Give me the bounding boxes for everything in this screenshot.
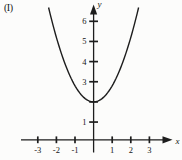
y-tick-label: 1 bbox=[82, 117, 86, 127]
x-tick-label: 3 bbox=[147, 145, 151, 155]
y-tick-label: 6 bbox=[82, 16, 86, 26]
x-tick-label: -3 bbox=[34, 145, 41, 155]
x-tick-label: 2 bbox=[129, 145, 133, 155]
x-tick-label: 1 bbox=[110, 145, 114, 155]
y-axis-letter: y bbox=[97, 0, 102, 9]
y-axis: 13456 bbox=[82, 5, 98, 153]
figure-panel: (I) -3-2-1123 13456 x y bbox=[0, 0, 182, 160]
x-tick-label: -1 bbox=[71, 145, 78, 155]
y-tick-label: 4 bbox=[82, 57, 87, 67]
y-tick-label: 3 bbox=[82, 77, 86, 87]
parabola-graph: -3-2-1123 13456 x y bbox=[0, 0, 182, 160]
x-axis-letter: x bbox=[175, 136, 180, 146]
x-tick-label: -2 bbox=[53, 145, 60, 155]
y-tick-label: 5 bbox=[82, 36, 86, 46]
x-axis: -3-2-1123 bbox=[21, 136, 173, 155]
